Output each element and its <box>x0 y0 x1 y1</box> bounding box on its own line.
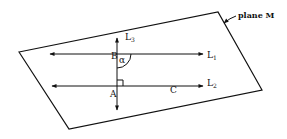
point-c-label: C <box>170 85 177 95</box>
right-angle-mark <box>117 80 123 86</box>
point-b-label: B <box>111 51 118 61</box>
plane-m-shape <box>19 12 262 129</box>
plane-label-pointer <box>224 16 236 23</box>
line-l3-label: L3 <box>125 32 135 43</box>
line-l1-label: L1 <box>207 50 217 61</box>
line-l2-label: L2 <box>207 78 217 89</box>
diagram-canvas: plane M L1 L2 L3 α B A C <box>0 0 287 139</box>
angle-alpha-label: α <box>119 55 125 65</box>
point-a-label: A <box>109 89 117 99</box>
plane-m-label: plane M <box>238 10 275 20</box>
